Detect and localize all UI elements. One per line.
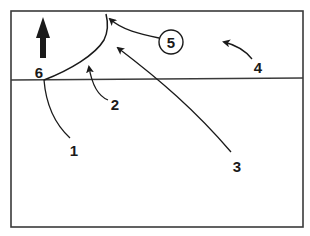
leader-2 [89, 67, 108, 100]
label-4: 4 [254, 59, 263, 76]
up-arrow-icon [36, 17, 50, 58]
leader-4 [224, 42, 252, 59]
leader-1 [44, 80, 70, 138]
label-1: 1 [70, 142, 78, 159]
leader-3 [118, 48, 231, 152]
label-5: 5 [167, 34, 175, 51]
curve-element [44, 14, 107, 80]
label-6: 6 [35, 64, 43, 81]
label-2: 2 [111, 96, 119, 113]
leader-5 [110, 19, 159, 38]
diagram-canvas: 6 1 2 3 4 5 [0, 0, 310, 236]
label-3: 3 [233, 158, 241, 175]
